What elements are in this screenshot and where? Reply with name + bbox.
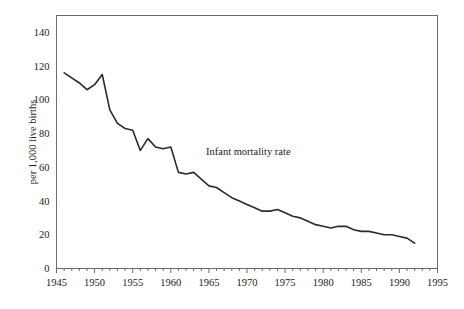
x-axis-tick-label: 1995 xyxy=(427,277,448,288)
x-axis-ticks xyxy=(57,269,438,274)
y-axis-title: per 1,000 live births xyxy=(27,100,38,185)
x-axis-tick-label: 1960 xyxy=(160,277,181,288)
y-axis-tick-label: 80 xyxy=(39,128,50,139)
y-axis-tick-label: 120 xyxy=(34,61,50,72)
x-axis-tick-label: 1965 xyxy=(198,277,219,288)
y-axis-tick-label: 140 xyxy=(34,27,50,38)
plot-area-frame xyxy=(57,16,438,269)
y-axis-tick-label: 20 xyxy=(39,229,50,240)
x-axis-tick-labels: 1945195019551960196519701975198019851990… xyxy=(46,277,448,288)
y-axis-tick-label: 60 xyxy=(39,162,50,173)
x-axis-tick-label: 1970 xyxy=(237,277,258,288)
infant-mortality-chart-figure: 1945195019551960196519701975198019851990… xyxy=(0,0,464,309)
series-annotation-label: Infant mortality rate xyxy=(206,146,291,157)
x-axis-tick-label: 1975 xyxy=(275,277,296,288)
x-axis-tick-label: 1990 xyxy=(389,277,410,288)
chart-canvas: 1945195019551960196519701975198019851990… xyxy=(0,0,464,309)
y-axis-tick-label: 0 xyxy=(44,263,49,274)
data-series-line xyxy=(64,73,415,243)
x-axis-tick-label: 1950 xyxy=(84,277,105,288)
x-axis-tick-label: 1955 xyxy=(122,277,143,288)
x-axis-tick-label: 1980 xyxy=(313,277,334,288)
x-axis-tick-label: 1985 xyxy=(351,277,372,288)
x-axis-tick-label: 1945 xyxy=(46,277,67,288)
y-axis-tick-label: 40 xyxy=(39,196,50,207)
